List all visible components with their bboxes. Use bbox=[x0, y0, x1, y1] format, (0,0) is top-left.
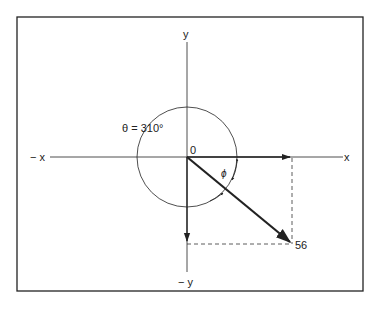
origin-label: 0 bbox=[190, 144, 196, 156]
x-neg-label: − x bbox=[30, 151, 45, 163]
main-vector-arrow bbox=[187, 157, 290, 242]
vector-tip-label: 56 bbox=[295, 239, 307, 251]
phasor-diagram: y − y x − x 0 θ = 310° ϕ 56 bbox=[0, 0, 379, 314]
x-pos-label: x bbox=[344, 151, 350, 163]
y-pos-label: y bbox=[183, 28, 189, 40]
theta-label: θ = 310° bbox=[122, 122, 163, 134]
phi-label: ϕ bbox=[221, 168, 227, 179]
y-neg-label: − y bbox=[178, 276, 193, 288]
